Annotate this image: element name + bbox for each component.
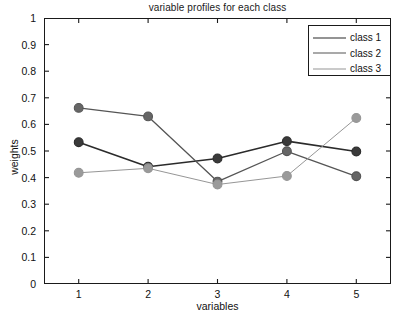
y-tick-label: 0.9 [2,39,36,51]
legend-label: class 2 [350,48,381,59]
y-tick-label: 1 [2,12,36,24]
legend-item-class-2[interactable]: class 2 [309,45,392,62]
legend-item-class-3[interactable]: class 3 [309,60,392,77]
x-tick-label: 3 [206,288,230,300]
x-tick-label: 5 [344,288,368,300]
legend-line-swatch [313,48,346,58]
y-tick-label: 0.1 [2,251,36,263]
y-tick-label: 0.6 [2,118,36,130]
y-tick-label: 0 [2,278,36,290]
chart-title: variable profiles for each class [44,2,391,13]
chart-legend: class 1class 2class 3 [308,25,391,76]
x-tick-label: 1 [67,288,91,300]
legend-line-swatch [313,33,346,43]
y-tick-label: 0.3 [2,198,36,210]
x-axis-label: variables [44,300,391,312]
legend-label: class 3 [350,63,381,74]
y-tick-label: 0.5 [2,145,36,157]
y-tick-label: 0.4 [2,172,36,184]
legend-item-class-1[interactable]: class 1 [309,29,392,46]
legend-line-swatch [313,64,346,74]
y-tick-label: 0.8 [2,65,36,77]
y-tick-label: 0.2 [2,225,36,237]
legend-label: class 1 [350,32,381,43]
x-tick-label: 2 [136,288,160,300]
figure-canvas: variable profiles for each class weights… [0,0,400,319]
x-tick-label: 4 [275,288,299,300]
y-tick-label: 0.7 [2,92,36,104]
